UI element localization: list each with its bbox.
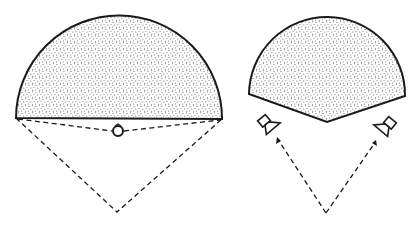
left-speaker-icon <box>256 111 280 135</box>
mono-panel <box>16 15 222 212</box>
mono-speaker-icon <box>113 126 123 136</box>
left-arrowhead-icon <box>276 137 281 144</box>
right-speaker-path <box>326 144 374 213</box>
right-arrowhead-icon <box>372 140 377 146</box>
stereo-sound-field <box>249 17 405 122</box>
mono-sound-field <box>16 15 222 119</box>
left-speaker-path <box>279 141 326 213</box>
sound-field-diagram <box>0 0 419 231</box>
stereo-panel <box>249 17 405 213</box>
right-speaker-icon <box>374 113 398 137</box>
